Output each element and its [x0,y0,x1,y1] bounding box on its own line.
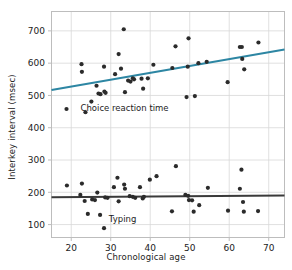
data-point [79,62,83,66]
data-point [117,199,121,203]
data-point [65,183,69,187]
y-tick-label: 300 [28,155,45,165]
data-point [93,198,97,202]
data-point [226,209,230,213]
data-point [148,178,152,182]
data-point [115,176,119,180]
data-point [184,95,188,99]
data-point [95,191,99,195]
y-axis-title: Interkey interval (msec) [7,52,17,202]
trend-line [52,50,285,90]
data-point [105,196,109,200]
data-point [64,107,68,111]
data-point [117,52,121,56]
data-point [133,196,137,200]
data-point [112,185,116,189]
scatter-plot-figure: 203040506070100200300400500600700 Choice… [0,0,292,270]
plot-frame [52,12,285,238]
data-point [122,27,126,31]
x-axis-title: Chronological age [0,252,292,262]
data-point [80,70,84,74]
y-tick-label: 700 [28,26,45,36]
data-point [86,212,90,216]
data-point [240,57,244,61]
data-point [138,185,142,189]
data-point [226,80,230,84]
data-point [83,199,87,203]
data-point [78,193,82,197]
data-point [186,194,190,198]
data-point [132,77,136,81]
data-point [141,87,145,91]
data-point [240,45,244,49]
data-point [193,94,197,98]
data-point [241,200,245,204]
data-point [186,65,190,69]
data-point [123,187,127,191]
data-point [98,92,102,96]
data-point [190,198,194,202]
y-tick-label: 500 [28,91,45,101]
data-point [197,203,201,207]
data-point [123,90,127,94]
y-tick-label: 200 [28,188,45,198]
trend-line [52,196,285,198]
data-point [238,187,242,191]
data-point [98,213,102,217]
data-point [94,84,98,88]
data-point [119,67,123,71]
data-point [151,63,155,67]
series-annotation-label: Typing [108,214,136,224]
data-point [242,210,246,214]
y-tick-label: 100 [28,220,45,230]
data-point [122,182,126,186]
data-point [142,195,146,199]
data-point [102,226,106,230]
data-point [256,40,260,44]
data-point [206,186,210,190]
data-point [170,209,174,213]
data-point [186,36,190,40]
data-point [139,77,143,81]
data-point [196,61,200,65]
plot-canvas: 203040506070100200300400500600700 Choice… [0,0,292,270]
y-tick-label: 600 [28,58,45,68]
data-point [170,66,174,70]
data-point [239,168,243,172]
data-point [205,60,209,64]
data-point [102,65,106,69]
data-point [192,210,196,214]
series-annotations: Choice reaction timeTyping [81,103,169,224]
data-point [104,91,108,95]
series-annotation-label: Choice reaction time [81,103,169,113]
data-point [146,76,150,80]
grid-lines [52,12,285,238]
data-points [64,27,260,230]
data-point [80,181,84,185]
trend-lines [52,50,285,198]
data-point [154,174,158,178]
data-point [113,72,117,76]
axis-tick-labels: 203040506070100200300400500600700 [28,26,275,253]
y-tick-label: 400 [28,123,45,133]
data-point [173,44,177,48]
data-point [174,164,178,168]
plot-border [52,12,285,238]
data-point [242,67,246,71]
data-point [256,209,260,213]
